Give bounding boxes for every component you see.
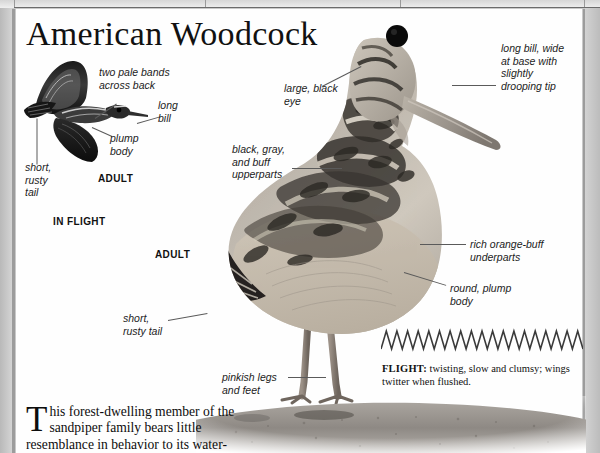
label-long-bill-detail: long bill, wide at base with slightly dr…	[501, 42, 564, 92]
label-plump-body: plump body	[110, 132, 139, 157]
flight-path-zigzag	[381, 327, 583, 353]
species-intro-text: his forest-dwelling member of the sandpi…	[26, 404, 234, 452]
label-short-rusty-tail-main: short, rusty tail	[123, 312, 162, 337]
eye	[386, 25, 408, 47]
left-margin-gutter	[0, 8, 12, 453]
leader-upperparts	[292, 168, 342, 169]
label-upperparts: black, gray, and buff upperparts	[232, 143, 285, 181]
label-pinkish-legs: pinkish legs and feet	[222, 371, 277, 396]
leader-underparts	[420, 244, 466, 245]
label-adult-main: ADULT	[155, 249, 190, 262]
species-intro-paragraph: This forest-dwelling member of the sandp…	[26, 404, 252, 453]
label-two-pale-bands: two pale bands across back	[99, 66, 170, 91]
label-underparts: rich orange-buff underparts	[470, 238, 544, 263]
field-guide-page: American Woodcock	[0, 0, 600, 453]
left-border-line	[12, 9, 15, 453]
flight-note: FLIGHT: twisting, slow and clumsy; wings…	[382, 362, 578, 388]
label-round-plump-body: round, plump body	[450, 282, 511, 307]
flight-note-heading: FLIGHT:	[382, 363, 427, 374]
leader-long-bill-detail	[452, 85, 496, 86]
label-adult-flight: ADULT	[98, 173, 133, 186]
right-border-line	[583, 9, 585, 453]
ground-shadow	[196, 396, 586, 453]
label-large-black-eye: large, black eye	[284, 82, 338, 107]
right-margin-gutter	[585, 0, 600, 453]
leader-pinkish-legs	[288, 377, 326, 378]
label-long-bill: long bill	[158, 99, 178, 124]
caption-in-flight: IN FLIGHT	[53, 216, 105, 229]
leader-short-rusty-tail-flight	[37, 119, 38, 165]
drop-cap: T	[26, 404, 49, 433]
label-short-rusty-tail-flight: short, rusty tail	[25, 161, 51, 199]
